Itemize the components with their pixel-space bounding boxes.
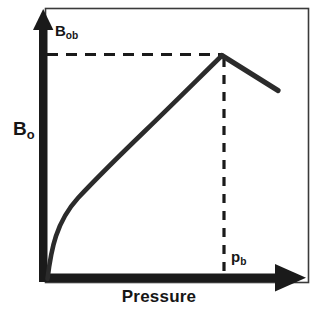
x-axis-title: Pressure <box>0 288 318 305</box>
y-axis-title: Bo <box>13 119 35 138</box>
chart-plot-area <box>0 0 318 312</box>
bob-value-label: Bob <box>55 23 78 38</box>
figure-frame <box>46 9 309 283</box>
bo-curve-decline <box>222 56 278 91</box>
chart-figure: Bob Bo pb Pressure <box>0 0 318 312</box>
pb-value-label: pb <box>231 249 246 264</box>
y-axis <box>33 9 53 282</box>
bo-curve <box>48 56 223 280</box>
